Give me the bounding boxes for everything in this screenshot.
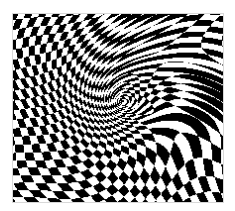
op-art-checkerboard-image (12, 13, 224, 203)
warped-checkerboard-canvas (13, 14, 223, 202)
